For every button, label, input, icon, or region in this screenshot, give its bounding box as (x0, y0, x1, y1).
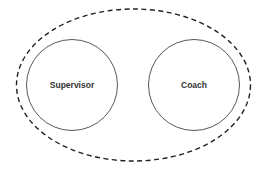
coach-label: Coach (181, 80, 207, 90)
node-supervisor: Supervisor (27, 40, 118, 131)
node-coach: Coach (149, 40, 240, 131)
supervisor-label: Supervisor (50, 80, 95, 90)
diagram-canvas: Supervisor Coach (0, 0, 267, 171)
